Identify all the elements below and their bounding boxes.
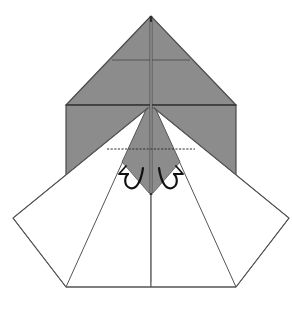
diagram-canvas [0,0,292,309]
origami-diagram [0,0,292,309]
